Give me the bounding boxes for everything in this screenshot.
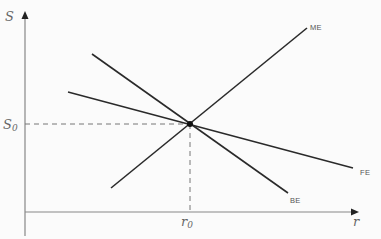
r0-label: r0 [181, 214, 193, 230]
me-curve [111, 28, 307, 188]
me-label: ME [310, 23, 322, 32]
x-axis-label: r [353, 214, 360, 229]
y-axis-label: S [5, 9, 14, 24]
fe-label: FE [360, 168, 370, 177]
be-label: BE [290, 196, 301, 205]
equilibrium-diagram: S r ME BE FE S0 r0 [0, 0, 381, 239]
fe-curve [68, 92, 353, 168]
equilibrium-point [187, 121, 193, 127]
s0-label: S0 [3, 117, 18, 133]
y-axis-arrow-icon [22, 11, 29, 19]
